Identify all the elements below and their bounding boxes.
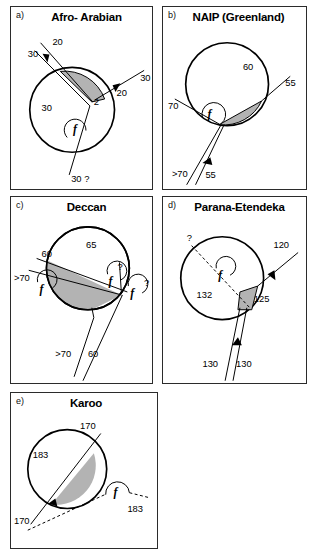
- label-b-4: 55: [205, 170, 215, 180]
- f-marker-b1: f: [207, 107, 212, 121]
- label-a-6: 30 ?: [71, 174, 89, 184]
- label-b-3: >70: [172, 169, 188, 179]
- panel-afro-arabian: a) Afro- Arabian f 20 30 30 20 2 30 30 ?: [10, 6, 153, 190]
- label-b-2: 70: [168, 101, 178, 111]
- label-a-2: 30: [140, 73, 150, 83]
- rift-line-d1: [258, 253, 298, 287]
- label-c-1: 60: [42, 249, 52, 259]
- label-c-2: ?: [117, 262, 122, 272]
- label-d-3: 125: [254, 294, 270, 304]
- f-marker-c3: f: [130, 286, 135, 300]
- shaded-lune-e: [51, 453, 95, 505]
- label-d-1: 120: [273, 240, 289, 250]
- diagram-a: f 20 30 30 20 2 30 30 ?: [11, 7, 152, 189]
- arrowhead-b1: [202, 157, 212, 165]
- rift-line-a1: [41, 43, 93, 102]
- arrowhead-a1: [43, 54, 50, 63]
- label-a-1: 30: [28, 49, 38, 59]
- label-d-0: ?: [187, 233, 192, 243]
- diagram-e: f 170 183 183 170: [11, 393, 157, 548]
- f-marker-e1: f: [114, 485, 119, 499]
- label-e-3: 170: [14, 516, 30, 526]
- label-a-3: 20: [117, 88, 127, 98]
- diagram-d: f ? 120 132 125 130 130: [163, 197, 306, 383]
- f-marker-a1: f: [73, 122, 78, 136]
- label-e-1: 183: [33, 450, 49, 460]
- label-d-5: 130: [236, 359, 252, 369]
- f-marker-c2: f: [109, 274, 114, 288]
- label-c-6: 60: [88, 349, 98, 359]
- label-d-4: 130: [202, 359, 218, 369]
- plume-circle-b: [186, 43, 269, 126]
- diagram-b: f 60 55 70 >70 55: [163, 7, 306, 189]
- label-c-0: 65: [86, 240, 96, 250]
- panel-karoo: e) Karoo f 170 183 183 170: [10, 392, 158, 549]
- label-a-4: 2: [94, 97, 99, 107]
- rift-line-b3: [187, 125, 222, 185]
- label-e-2: 183: [127, 504, 143, 514]
- label-e-0: 170: [80, 421, 96, 431]
- label-c-3: >70: [14, 273, 30, 283]
- panel-naip-greenland: b) NAIP (Greenland) f 60 55 70 >70 55: [162, 6, 307, 190]
- arrowhead-d1: [268, 270, 276, 280]
- label-c-5: >70: [55, 349, 71, 359]
- label-a-0: 20: [52, 37, 62, 47]
- dashed-line-e2: [129, 493, 149, 498]
- label-c-4: ?: [144, 278, 149, 288]
- panel-deccan: c) Deccan f f f 65 60 ? >70 ? >70 60: [10, 196, 153, 384]
- rift-line-a3: [69, 106, 90, 175]
- f-marker-c1: f: [40, 282, 45, 296]
- rift-line-c4: [74, 318, 94, 377]
- f-marker-d1: f: [218, 268, 223, 282]
- diagram-c: f f f 65 60 ? >70 ? >70 60: [11, 197, 152, 383]
- label-a-5: 30: [42, 103, 52, 113]
- label-b-0: 60: [243, 62, 253, 72]
- label-d-2: 132: [197, 290, 213, 300]
- label-b-1: 55: [285, 78, 295, 88]
- panel-parana-etendeka: d) Parana-Etendeka f ? 120 132 125 130 1…: [162, 196, 307, 384]
